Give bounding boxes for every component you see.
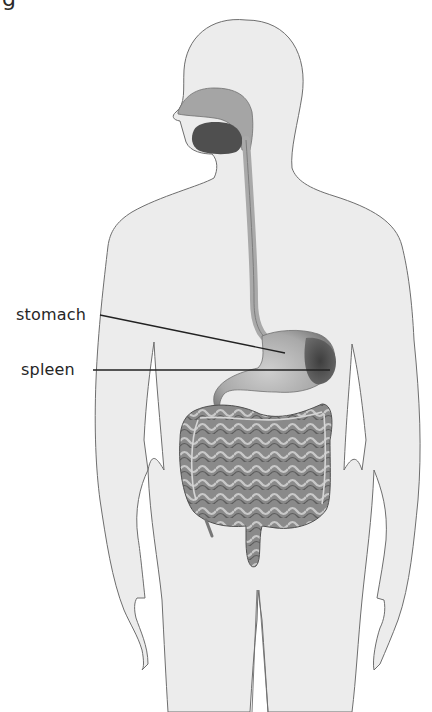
body-silhouette: [95, 20, 420, 712]
body-illustration: [0, 0, 432, 712]
digestive-system-diagram: g: [0, 0, 432, 712]
spleen-label: spleen: [21, 360, 75, 379]
stomach-label: stomach: [16, 305, 86, 324]
